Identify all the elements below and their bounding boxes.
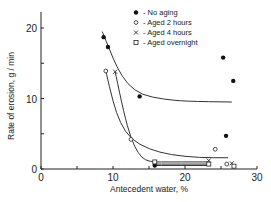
y-tick-label: 0 [31,164,37,175]
open-square-marker [232,164,236,168]
filled-circle-marker [137,94,141,98]
fitted-curves [102,32,232,166]
filled-circle-marker [106,45,110,49]
legend-item: - Aged 2 hours [143,18,192,27]
filled-circle-marker [231,79,235,83]
erosion-chart: 010203001020 - No aging- Aged 2 hours- A… [0,0,271,202]
y-tick-label: 10 [26,94,38,105]
legend-item: - Aged overnight [143,38,199,47]
x-tick-label: 30 [251,172,263,183]
x-tick-label: 20 [179,172,191,183]
open-square-marker [134,41,138,45]
filled-circle-marker [134,10,138,14]
open-square-marker [207,162,211,166]
legend-item: - Aged 4 hours [143,28,192,37]
legend-item: - No aging [143,8,178,17]
filled-circle-marker [224,134,228,138]
open-circle-marker [213,147,217,151]
x-axis-label: Antecedent water, % [110,184,188,194]
filled-circle-marker [101,35,105,39]
x-marker [134,31,138,35]
x-tick-label: 10 [107,172,119,183]
x-tick-label: 0 [38,172,44,183]
open-square-marker [153,160,157,164]
open-circle-marker [129,137,133,141]
filled-circle-marker [221,55,225,59]
open-circle-marker [225,162,229,166]
y-axis-label: Rate of erosion, g / min [6,52,16,140]
legend: - No aging- Aged 2 hours- Aged 4 hours- … [134,8,199,47]
open-circle-marker [134,21,138,25]
open-circle-marker [104,69,108,73]
y-tick-label: 20 [26,23,38,34]
